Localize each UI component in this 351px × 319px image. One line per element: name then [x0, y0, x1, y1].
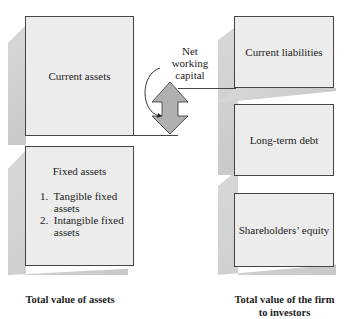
list-item: 1. Tangible fixed — [40, 190, 124, 202]
firm-value-caption-line1: Total value of the firm — [222, 293, 347, 306]
current-assets-shadow — [8, 25, 26, 145]
double-arrow-icon — [130, 60, 210, 140]
list-item: 2. Intangible fixed — [40, 214, 124, 226]
nwc-line1: Net — [160, 45, 220, 57]
fixed-assets-title: Fixed assets — [25, 165, 134, 177]
firm-value-caption-line2: to investors — [222, 306, 347, 319]
assets-caption: Total value of assets — [15, 293, 125, 306]
firm-value-caption: Total value of the firm to investors — [222, 293, 347, 319]
right-shadow-2 — [218, 88, 336, 103]
list-item: assets — [40, 226, 124, 238]
shareholders-equity-label: Shareholders’ equity — [239, 224, 330, 236]
long-term-debt-box: Long-term debt — [234, 104, 334, 176]
current-assets-box: Current assets — [25, 16, 134, 136]
current-assets-label: Current assets — [48, 70, 110, 82]
current-liabilities-label: Current liabilities — [245, 46, 322, 58]
current-liabilities-box: Current liabilities — [234, 16, 334, 88]
list-item: assets — [40, 202, 124, 214]
fixed-assets-list: 1. Tangible fixed assets 2. Intangible f… — [40, 190, 124, 238]
shareholders-equity-box: Shareholders’ equity — [234, 193, 334, 267]
long-term-debt-label: Long-term debt — [250, 134, 319, 146]
